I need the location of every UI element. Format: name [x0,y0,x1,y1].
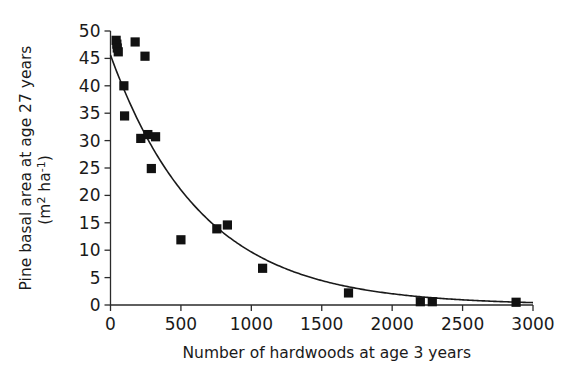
y-axis-title: Pine basal area at age 27 years [17,46,35,291]
y-tick-label-30: 30 [79,131,101,151]
chart-figure: 050010001500200025003000 051015202530354… [0,0,581,372]
x-axis-title: Number of hardwoods at age 3 years [182,344,471,362]
data-point-17 [416,297,425,306]
y-tick-label-5: 5 [90,268,101,288]
x-tick-label-0: 0 [105,314,116,334]
scatter-plot: 050010001500200025003000 051015202530354… [0,0,581,372]
y-tick-label-0: 0 [90,295,101,315]
data-point-13 [212,224,221,233]
data-point-7 [120,111,129,120]
data-point-5 [140,52,149,61]
axes [111,31,534,305]
data-point-19 [512,298,521,307]
data-point-3 [114,47,123,56]
y-tick-label-40: 40 [79,76,101,96]
axis-spine [111,31,534,305]
data-point-12 [176,235,185,244]
x-tick-label-3000: 3000 [511,314,554,334]
y-tick-label-45: 45 [79,48,101,68]
data-point-16 [344,288,353,297]
y-tick-labels: 05101520253035404550 [79,21,101,315]
y-tick-label-15: 15 [79,213,101,233]
data-point-4 [131,37,140,46]
x-tick-label-1500: 1500 [300,314,343,334]
data-points [112,36,521,307]
data-point-14 [223,220,232,229]
y-tick-label-10: 10 [79,240,101,260]
x-tick-label-2000: 2000 [371,314,414,334]
data-point-10 [151,132,160,141]
fit-curve [111,55,534,302]
data-point-11 [147,164,156,173]
data-point-15 [258,264,267,273]
y-axis-units: (m2 ha-1) [35,155,54,224]
x-tick-labels: 050010001500200025003000 [105,314,555,334]
y-tick-label-20: 20 [79,185,101,205]
x-tick-label-500: 500 [165,314,197,334]
y-tick-label-25: 25 [79,158,101,178]
x-tick-label-2500: 2500 [441,314,484,334]
x-tick-label-1000: 1000 [230,314,273,334]
data-point-18 [428,297,437,306]
data-point-6 [119,81,128,90]
exponential-fit-line [111,55,534,302]
y-tick-label-50: 50 [79,21,101,41]
tick-marks [105,31,534,311]
y-tick-label-35: 35 [79,103,101,123]
